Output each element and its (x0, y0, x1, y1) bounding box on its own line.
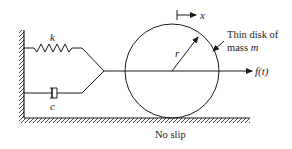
disk-label-line1: Thin disk of (227, 29, 279, 40)
no-slip-label: No slip (155, 129, 186, 140)
disk-label-mass-var: m (251, 42, 259, 53)
spring-label: k (50, 31, 56, 43)
ground (19, 118, 250, 123)
force-label: f(t) (255, 65, 269, 78)
diagram-canvas: k c r x f(t) Thin disk of mass m No slip (0, 0, 292, 149)
disk-label-line2: mass m (227, 42, 259, 53)
damper (24, 71, 104, 98)
disk-label-mass-text: mass (227, 42, 251, 53)
displacement-label: x (199, 9, 205, 21)
wall (19, 30, 24, 118)
spring (24, 44, 104, 71)
disk-label-pointer (213, 41, 224, 51)
damper-label: c (50, 100, 55, 112)
radius-label: r (175, 47, 180, 59)
displacement-arrow (177, 10, 196, 20)
